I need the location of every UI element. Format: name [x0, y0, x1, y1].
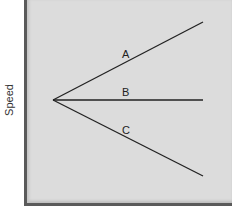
- series-label-c: C: [122, 124, 130, 136]
- chart-lines: A B C: [0, 0, 232, 213]
- series-label-b: B: [122, 86, 129, 98]
- line-c: [53, 100, 203, 176]
- series-label-a: A: [122, 48, 130, 60]
